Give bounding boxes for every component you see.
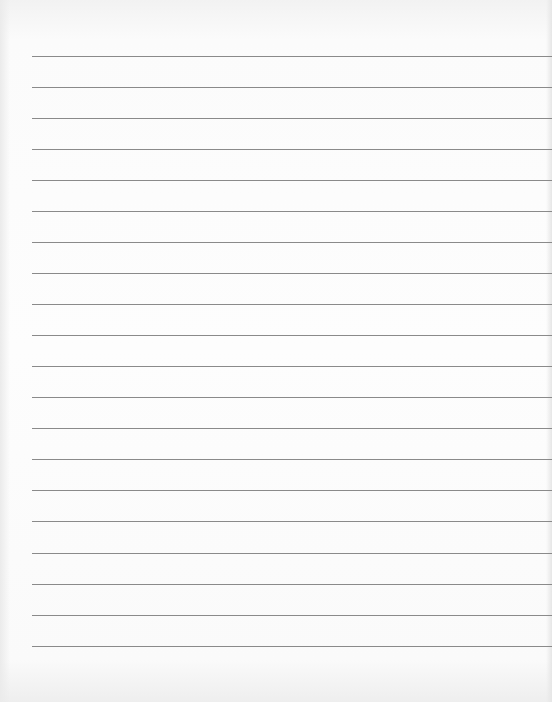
ruled-line <box>32 180 552 181</box>
ruled-line <box>32 366 552 367</box>
ruled-line <box>32 428 552 429</box>
paper-right-edge-shadow <box>546 0 552 702</box>
ruled-line <box>32 397 552 398</box>
ruled-line <box>32 242 552 243</box>
ruled-line <box>32 335 552 336</box>
ruled-line <box>32 584 552 585</box>
ruled-line <box>32 553 552 554</box>
ruled-line <box>32 87 552 88</box>
ruled-line <box>32 304 552 305</box>
ruled-line <box>32 118 552 119</box>
ruled-line <box>32 56 552 57</box>
ruled-line <box>32 459 552 460</box>
ruled-line <box>32 521 552 522</box>
ruled-line <box>32 149 552 150</box>
paper-left-edge-shadow <box>0 0 10 702</box>
lined-paper-page <box>0 0 552 702</box>
ruled-line <box>32 273 552 274</box>
ruled-line <box>32 490 552 491</box>
ruled-line <box>32 211 552 212</box>
ruled-line <box>32 615 552 616</box>
ruled-line <box>32 646 552 647</box>
